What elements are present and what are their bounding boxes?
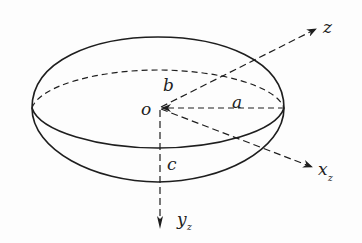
x-axis-line bbox=[161, 109, 312, 167]
y-axis-label: y bbox=[176, 209, 187, 229]
ellipsoid-diagram: o b a c z x z y z bbox=[0, 0, 362, 243]
x-axis-label: x bbox=[318, 159, 328, 179]
upper-dome-outline bbox=[32, 37, 284, 108]
z-axis-label: z bbox=[322, 17, 333, 37]
lower-bowl-outline bbox=[32, 108, 284, 182]
back-equator-dashed bbox=[32, 70, 284, 108]
semi-axis-a-label: a bbox=[232, 92, 242, 112]
semi-axis-c-label: c bbox=[167, 154, 177, 174]
x-axis-subscript: z bbox=[327, 173, 333, 183]
diagram-svg: o b a c z x z y z bbox=[0, 0, 362, 243]
origin-label: o bbox=[141, 99, 151, 119]
semi-axis-b-label: b bbox=[163, 75, 174, 95]
y-axis-arrowhead-icon bbox=[157, 216, 163, 229]
y-axis-subscript: z bbox=[186, 222, 192, 232]
